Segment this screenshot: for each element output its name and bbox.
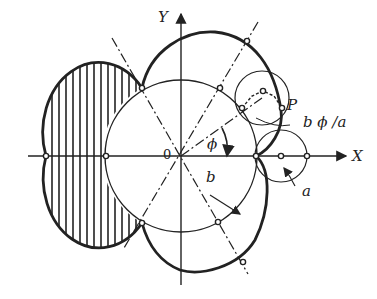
- y-axis-label: Y: [158, 10, 168, 25]
- diagram-drawing: [0, 0, 377, 299]
- x-axis-label: X: [352, 149, 363, 164]
- construction-lines: [112, 22, 262, 274]
- diagram-canvas: Y X 0 P b ϕ /a ϕ b a: [0, 0, 377, 299]
- arc-length-label: b ϕ /a: [303, 115, 346, 130]
- radius-b-label: b: [206, 170, 216, 185]
- radius-a-label: a: [302, 184, 311, 199]
- origin-label: 0: [163, 148, 171, 161]
- point-p-label: P: [287, 98, 297, 113]
- angle-phi-label: ϕ: [207, 137, 217, 152]
- hatched-outline: [43, 62, 142, 247]
